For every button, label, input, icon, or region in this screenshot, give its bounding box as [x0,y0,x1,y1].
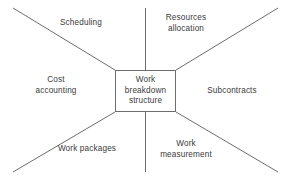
region-label-subcontracts: Subcontracts [192,86,272,97]
region-label-cost-accounting: Cost accounting [18,75,94,96]
region-label-scheduling: Scheduling [44,18,118,29]
work-breakdown-structure-diagram: Work breakdown structure Scheduling Reso… [0,0,291,180]
region-label-work-measurement: Work measurement [153,139,219,160]
center-node-work-breakdown-structure: Work breakdown structure [115,70,176,112]
region-label-resources-allocation: Resources allocation [155,13,217,34]
center-node-label: Work breakdown structure [125,75,166,107]
diagonal-line-lower-left [13,112,115,172]
region-label-work-packages: Work packages [44,144,130,155]
